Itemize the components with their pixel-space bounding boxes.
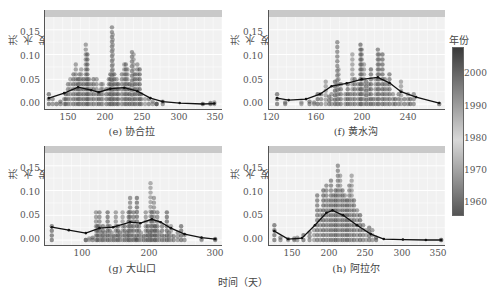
y-tick: 0.05 xyxy=(233,210,263,220)
y-tick: 0.10 xyxy=(10,187,40,197)
y-tick: 0.00 xyxy=(233,98,263,108)
panel-caption: (e) 协合拉 xyxy=(44,123,220,138)
plot-area xyxy=(44,146,222,246)
x-tick: 200 xyxy=(134,248,164,258)
plot-area xyxy=(268,146,445,246)
x-tick: 250 xyxy=(350,248,380,258)
plot-area xyxy=(44,10,222,110)
y-tick: 0.10 xyxy=(233,51,263,61)
plot-area xyxy=(268,10,445,110)
x-tick: 150 xyxy=(277,248,307,258)
x-tick: 120 xyxy=(256,112,286,122)
x-tick: 350 xyxy=(200,112,230,122)
legend-title: 年份 xyxy=(449,32,469,47)
y-tick: 0.15 xyxy=(233,27,263,37)
x-tick: 100 xyxy=(67,248,97,258)
x-tick: 240 xyxy=(393,112,423,122)
x-tick: 300 xyxy=(200,248,230,258)
legend-tick: 1980 xyxy=(464,133,487,143)
y-tick: 0.15 xyxy=(10,163,40,173)
x-tick: 200 xyxy=(347,112,377,122)
legend-tick: 1960 xyxy=(464,197,487,207)
y-tick: 0.10 xyxy=(233,187,263,197)
legend-tick: 1970 xyxy=(464,165,487,175)
legend-tick: 1990 xyxy=(464,101,487,111)
panel-caption: (h) 阿拉尔 xyxy=(268,260,444,275)
y-tick: 0.10 xyxy=(10,51,40,61)
x-tick: 160 xyxy=(301,112,331,122)
y-tick: 0.00 xyxy=(233,234,263,244)
y-tick: 0.00 xyxy=(10,234,40,244)
y-tick: 0.05 xyxy=(10,210,40,220)
x-tick: 250 xyxy=(127,112,157,122)
x-tick: 200 xyxy=(314,248,344,258)
legend-tick: 2000 xyxy=(464,68,487,78)
x-tick: 300 xyxy=(164,112,194,122)
y-tick: 0.05 xyxy=(10,75,40,85)
y-tick: 0.15 xyxy=(233,163,263,173)
panel-caption: (g) 大山口 xyxy=(44,260,220,275)
year-colorbar xyxy=(452,47,464,216)
panel-caption: (f) 黄水沟 xyxy=(268,123,444,138)
x-tick: 300 xyxy=(387,248,417,258)
y-tick: 0.05 xyxy=(233,75,263,85)
y-tick: 0.15 xyxy=(10,27,40,37)
y-tick: 0.00 xyxy=(10,98,40,108)
shared-x-axis-label: 时间（天） xyxy=(218,274,268,289)
x-tick: 350 xyxy=(423,248,453,258)
x-tick: 200 xyxy=(90,112,120,122)
x-tick: 150 xyxy=(53,112,83,122)
